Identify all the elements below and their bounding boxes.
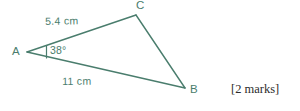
side-length-label-ab: 11 cm <box>62 76 91 87</box>
triangle-side-ab <box>27 52 185 88</box>
angle-label-a: 38° <box>50 45 66 56</box>
triangle-side-ac <box>27 15 136 52</box>
vertex-label-c: C <box>136 0 145 12</box>
triangle-side-cb <box>136 15 185 88</box>
vertex-label-b: B <box>190 84 198 96</box>
marks-note: [2 marks] <box>231 83 279 96</box>
side-length-label-ac: 5.4 cm <box>45 15 79 26</box>
vertex-label-a: A <box>12 46 20 58</box>
